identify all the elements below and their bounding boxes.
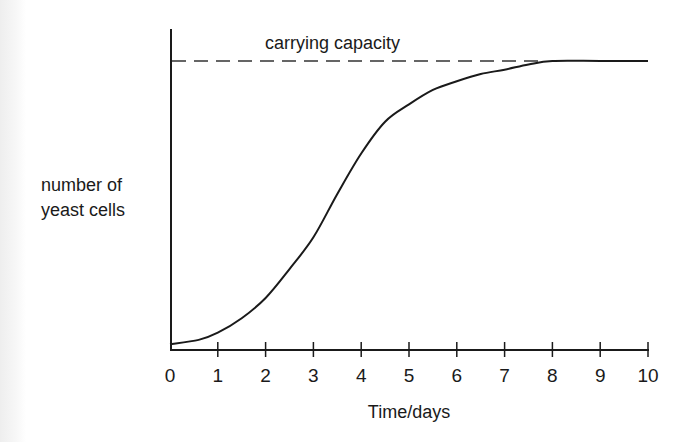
x-tick-label: 7 — [499, 365, 510, 386]
chart: 012345678910 carrying capacity number of… — [0, 0, 698, 442]
x-tick-label: 10 — [637, 365, 658, 386]
x-tick-label: 8 — [547, 365, 558, 386]
x-tick-label: 9 — [595, 365, 606, 386]
population-curve — [170, 61, 648, 344]
x-tick-label: 4 — [356, 365, 367, 386]
x-tick-label: 3 — [308, 365, 319, 386]
x-tick-labels: 012345678910 — [165, 365, 659, 386]
carrying-capacity-label: carrying capacity — [265, 33, 400, 53]
x-tick-label: 0 — [165, 365, 176, 386]
x-axis-label: Time/days — [368, 402, 450, 422]
x-tick-label: 1 — [213, 365, 224, 386]
x-tick-label: 5 — [404, 365, 415, 386]
y-axis-label-line2: yeast cells — [41, 200, 125, 220]
x-tick-label: 2 — [260, 365, 271, 386]
y-axis-label-line1: number of — [41, 175, 123, 195]
x-tick-label: 6 — [452, 365, 463, 386]
